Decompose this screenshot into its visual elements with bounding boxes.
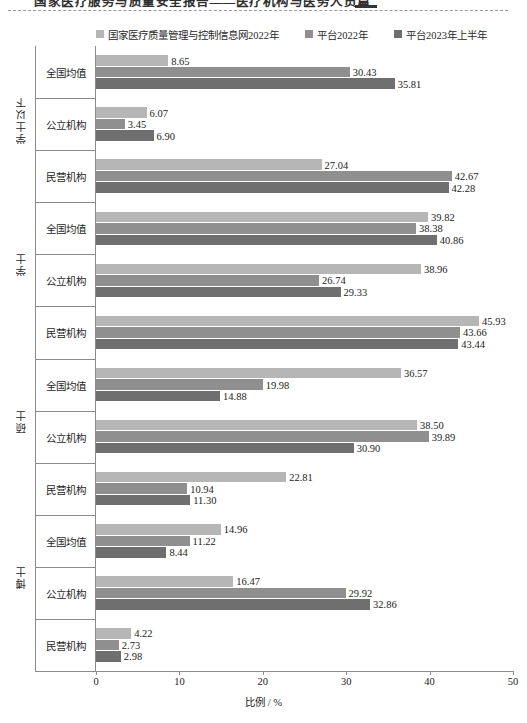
bar-row[interactable]: 42.28 — [96, 182, 513, 193]
bar[interactable] — [96, 640, 119, 651]
bar-row[interactable]: 2.73 — [96, 640, 513, 651]
bar-row[interactable]: 32.86 — [96, 599, 513, 610]
bar-row[interactable]: 14.88 — [96, 391, 513, 402]
bar-value-label: 14.96 — [221, 524, 248, 535]
bar-value-label: 39.82 — [428, 211, 455, 222]
bar[interactable] — [96, 223, 416, 234]
x-axis-title: 比例 / % — [0, 694, 527, 709]
bar-row[interactable]: 42.67 — [96, 171, 513, 182]
bar-value-label: 11.22 — [190, 535, 216, 546]
bar-value-label: 4.22 — [131, 628, 152, 639]
bar[interactable] — [96, 599, 370, 610]
bar-row[interactable]: 30.43 — [96, 67, 513, 78]
page-header-tick — [355, 5, 377, 8]
bar[interactable] — [96, 171, 452, 182]
bar-row[interactable]: 8.65 — [96, 55, 513, 66]
bar-row[interactable]: 22.81 — [96, 472, 513, 483]
group-label: 公立机构 — [36, 117, 96, 132]
bar[interactable] — [96, 420, 417, 431]
bar[interactable] — [96, 235, 437, 246]
bar-value-label: 11.30 — [190, 495, 216, 506]
bar-row[interactable]: 39.82 — [96, 212, 513, 223]
bar-row[interactable]: 35.81 — [96, 78, 513, 89]
bar-row[interactable]: 29.33 — [96, 287, 513, 298]
bar-row[interactable]: 38.50 — [96, 420, 513, 431]
bar-value-label: 29.92 — [346, 587, 373, 598]
bar[interactable] — [96, 576, 233, 587]
bar-row[interactable]: 6.90 — [96, 130, 513, 141]
bar-row[interactable]: 6.07 — [96, 107, 513, 118]
page-running-header: 国家医疗服务与质量安全报告——医疗机构与医务人员篇 — [0, 0, 527, 12]
bar[interactable] — [96, 495, 190, 506]
bar-value-label: 43.66 — [460, 327, 487, 338]
bar-row[interactable]: 11.22 — [96, 536, 513, 547]
bar-row[interactable]: 16.47 — [96, 576, 513, 587]
legend-entry[interactable]: 国家医疗质量管理与控制信息网2022年 — [96, 27, 279, 42]
bar[interactable] — [96, 130, 154, 141]
bar[interactable] — [96, 547, 166, 558]
tier-label: 硕士 — [14, 409, 34, 433]
bar-value-label: 19.98 — [263, 379, 290, 390]
bar[interactable] — [96, 119, 125, 130]
x-axis-ticks: 01020304050 — [0, 671, 527, 691]
bar-row[interactable]: 40.86 — [96, 235, 513, 246]
bar-row[interactable]: 8.44 — [96, 547, 513, 558]
legend-entry[interactable]: 平台2023年上半年 — [394, 27, 487, 42]
bar[interactable] — [96, 55, 168, 66]
bar[interactable] — [96, 275, 319, 286]
bar[interactable] — [96, 391, 220, 402]
bar-row[interactable]: 38.96 — [96, 264, 513, 275]
bar[interactable] — [96, 182, 449, 193]
bar-row[interactable]: 39.89 — [96, 431, 513, 442]
bar[interactable] — [96, 443, 354, 454]
bar-row[interactable]: 36.57 — [96, 368, 513, 379]
bar-value-label: 30.90 — [354, 443, 381, 454]
bar-row[interactable]: 43.66 — [96, 327, 513, 338]
bar[interactable] — [96, 316, 479, 327]
bar-row[interactable]: 2.98 — [96, 651, 513, 662]
bar-row[interactable]: 19.98 — [96, 379, 513, 390]
tier-axis: 学士以下全国均值公立机构民营机构学士全国均值公立机构民营机构硕士全国均值公立机构… — [0, 46, 96, 671]
bar-value-label: 43.44 — [458, 338, 485, 349]
bar[interactable] — [96, 78, 395, 89]
bar[interactable] — [96, 524, 221, 535]
bar-row[interactable]: 26.74 — [96, 275, 513, 286]
bar[interactable] — [96, 431, 429, 442]
bar-row[interactable]: 4.22 — [96, 628, 513, 639]
bar-row[interactable]: 27.04 — [96, 159, 513, 170]
bar[interactable] — [96, 287, 341, 298]
bar[interactable] — [96, 107, 147, 118]
group-divider — [36, 619, 96, 620]
bar[interactable] — [96, 67, 350, 78]
bar[interactable] — [96, 339, 458, 350]
tier-block: 学士以下全国均值公立机构民营机构 — [0, 46, 96, 202]
bar-value-label: 30.43 — [350, 67, 377, 78]
bar[interactable] — [96, 212, 428, 223]
bar-row[interactable]: 14.96 — [96, 524, 513, 535]
bar-row[interactable]: 43.44 — [96, 339, 513, 350]
bar-row[interactable]: 10.94 — [96, 483, 513, 494]
bar[interactable] — [96, 588, 346, 599]
bar[interactable] — [96, 379, 263, 390]
bar[interactable] — [96, 327, 460, 338]
bar[interactable] — [96, 483, 187, 494]
bar-row[interactable]: 11.30 — [96, 495, 513, 506]
x-tick-label: 10 — [174, 676, 185, 687]
bar[interactable] — [96, 368, 401, 379]
bar-row[interactable]: 30.90 — [96, 443, 513, 454]
bar[interactable] — [96, 264, 421, 275]
bar[interactable] — [96, 628, 131, 639]
bar[interactable] — [96, 536, 190, 547]
bar-row[interactable]: 3.45 — [96, 119, 513, 130]
plot-area: 8.6530.4335.816.073.456.9027.0442.6742.2… — [96, 46, 513, 671]
bar[interactable] — [96, 472, 286, 483]
bar-row[interactable]: 38.38 — [96, 223, 513, 234]
legend-entry[interactable]: 平台2022年 — [305, 27, 368, 42]
group-divider — [36, 98, 96, 99]
bar-row[interactable]: 45.93 — [96, 316, 513, 327]
bar[interactable] — [96, 651, 121, 662]
bar[interactable] — [96, 159, 322, 170]
group-label: 民营机构 — [36, 638, 96, 653]
bar-value-label: 45.93 — [479, 315, 506, 326]
bar-row[interactable]: 29.92 — [96, 588, 513, 599]
